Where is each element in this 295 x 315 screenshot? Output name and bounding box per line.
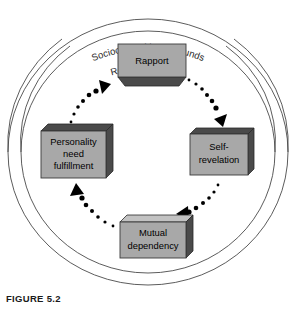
arrow-rapport-to-self-revelation <box>188 79 227 127</box>
node-personality-label-line3: fulfillment <box>54 160 94 171</box>
figure-container: Sociocultural backgrounds Role conceptio… <box>0 0 295 315</box>
node-self-revelation-right-face <box>248 128 254 175</box>
node-rapport-label: Rapport <box>135 55 169 66</box>
arrow-head-rapport <box>99 80 111 94</box>
node-mutual-dependency-label-line1: Mutual <box>139 227 167 238</box>
node-personality-need-fulfillment[interactable]: Personality need fulfillment <box>41 124 113 178</box>
node-mutual-dependency-label-line2: dependency <box>127 240 178 251</box>
arrow-head-self-revelation <box>214 114 227 127</box>
node-self-revelation-top-face <box>190 128 254 134</box>
node-personality-right-face <box>106 124 113 178</box>
node-rapport-bottom-face <box>118 77 186 86</box>
node-rapport[interactable]: Rapport <box>118 44 186 86</box>
cycle-diagram: Sociocultural backgrounds Role conceptio… <box>0 0 295 315</box>
node-mutual-dependency[interactable]: Mutual dependency <box>120 215 193 258</box>
arrow-self-revelation-to-mutual-dependency <box>176 184 219 220</box>
node-self-revelation[interactable]: Self- revelation <box>190 128 254 175</box>
arrow-mutual-dependency-to-personality <box>70 183 114 227</box>
node-self-revelation-label-line2: revelation <box>199 154 240 165</box>
node-personality-top-face <box>41 124 113 131</box>
node-mutual-dependency-top-face <box>120 215 193 222</box>
node-mutual-dependency-right-face <box>186 215 193 258</box>
node-personality-label-line1: Personality <box>50 136 97 147</box>
figure-caption: FIGURE 5.2 <box>6 293 61 304</box>
node-personality-label-line2: need <box>63 148 84 159</box>
arrow-personality-to-rapport <box>70 80 111 123</box>
node-self-revelation-label-line1: Self- <box>209 141 228 152</box>
arrow-head-personality <box>70 183 84 196</box>
